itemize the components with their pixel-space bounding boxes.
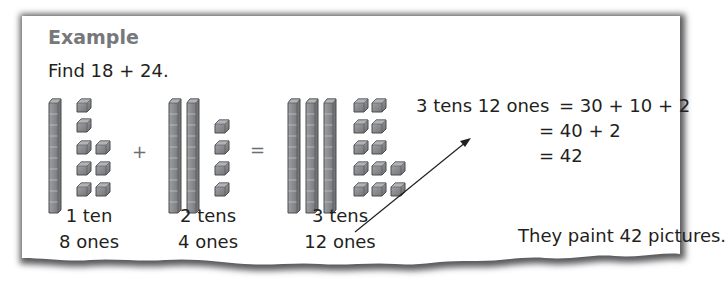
group-3-caption: 3 tens 12 ones: [295, 203, 385, 255]
equation-step-3: = 42: [539, 145, 583, 166]
answer-statement: They paint 42 pictures.: [518, 225, 726, 246]
group-2-ones-label: 4 ones: [163, 229, 253, 255]
equation-line-1: 3 tens 12 ones = 30 + 10 + 2: [416, 95, 690, 116]
equation-step-1: = 30 + 10 + 2: [559, 95, 690, 116]
unit-cube: [77, 99, 91, 112]
group-1-tens-label: 1 ten: [44, 203, 134, 229]
plus-sign: +: [132, 141, 147, 162]
group-3-tens-label: 3 tens: [295, 203, 385, 229]
ten-rod: [49, 99, 61, 213]
equals-sign: =: [250, 139, 265, 160]
equation-step-2: = 40 + 2: [539, 120, 621, 141]
group-1-ones-label: 8 ones: [44, 229, 134, 255]
group-2-blocks: [169, 99, 229, 213]
group-2-caption: 2 tens 4 ones: [163, 203, 253, 255]
equation-lhs: 3 tens 12 ones: [416, 95, 549, 116]
group-3-ones-label: 12 ones: [295, 229, 385, 255]
group-2-tens-label: 2 tens: [163, 203, 253, 229]
group-1-caption: 1 ten 8 ones: [44, 203, 134, 255]
group-1-blocks: [49, 99, 110, 213]
group-3-blocks: [288, 99, 405, 213]
